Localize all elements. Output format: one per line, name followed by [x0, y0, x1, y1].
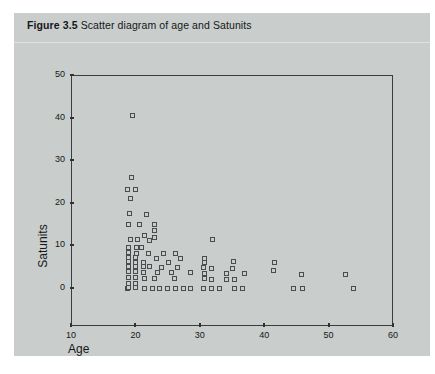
y-tick-label: 50 [37, 69, 65, 79]
data-point [155, 270, 160, 275]
data-point [152, 276, 157, 281]
data-point [169, 270, 174, 275]
figure-panel: Figure 3.5 Scatter diagram of age and Sa… [14, 13, 430, 356]
data-point [129, 175, 134, 180]
data-point [133, 275, 138, 280]
data-point [209, 266, 214, 271]
data-point [128, 196, 133, 201]
data-point [144, 212, 149, 217]
data-point [152, 235, 157, 240]
data-point [152, 222, 157, 227]
data-point [271, 268, 276, 273]
y-tick-mark [70, 287, 74, 289]
data-point [217, 286, 222, 291]
data-point [152, 228, 157, 233]
x-tick-mark [328, 323, 330, 327]
scatter-plot: 01020304050102030405060 Satunits Age [14, 43, 430, 356]
data-point [126, 275, 131, 280]
y-tick-label: 30 [37, 154, 65, 164]
x-tick-mark [199, 323, 201, 327]
data-point [147, 238, 152, 243]
data-point [142, 286, 147, 291]
data-point [201, 286, 206, 291]
figure-number: Figure 3.5 [27, 19, 78, 31]
figure-caption-bar: Figure 3.5 Scatter diagram of age and Sa… [14, 13, 430, 42]
data-point [135, 237, 140, 242]
data-point [141, 264, 146, 269]
data-point [230, 266, 235, 271]
data-point [231, 259, 236, 264]
data-point [165, 286, 170, 291]
x-tick-mark [70, 323, 72, 327]
data-point [147, 264, 152, 269]
data-point [232, 277, 237, 282]
x-axis-label: Age [68, 342, 89, 356]
data-point [272, 260, 277, 265]
figure-caption: Figure 3.5 Scatter diagram of age and Sa… [27, 19, 252, 31]
data-point [343, 272, 348, 277]
y-tick-mark [70, 244, 74, 246]
data-point [300, 286, 305, 291]
data-point [224, 277, 229, 282]
x-tick-label: 30 [185, 330, 215, 340]
data-point [139, 245, 144, 250]
y-tick-mark [70, 202, 74, 204]
data-point [351, 286, 356, 291]
data-point [142, 276, 147, 281]
figure-caption-text: Scatter diagram of age and Satunits [81, 19, 252, 31]
data-point [126, 269, 131, 274]
x-tick-mark [263, 323, 265, 327]
data-point [141, 270, 146, 275]
y-tick-mark [70, 74, 74, 76]
data-point [201, 265, 206, 270]
data-point [291, 286, 296, 291]
x-tick-mark [134, 323, 136, 327]
data-point [210, 237, 215, 242]
y-tick-mark [70, 117, 74, 119]
y-tick-mark [70, 159, 74, 161]
data-point [154, 256, 159, 261]
data-point [188, 270, 193, 275]
data-point [242, 271, 247, 276]
data-point [166, 260, 171, 265]
data-point [161, 251, 166, 256]
data-point [126, 285, 131, 290]
data-point [224, 271, 229, 276]
x-tick-label: 60 [378, 330, 408, 340]
x-tick-mark [392, 323, 394, 327]
data-point [126, 222, 131, 227]
y-tick-label: 0 [37, 282, 65, 292]
data-point [175, 265, 180, 270]
y-tick-label: 40 [37, 112, 65, 122]
data-point [188, 286, 193, 291]
data-point [146, 251, 151, 256]
data-point [240, 286, 245, 291]
data-point [209, 286, 214, 291]
data-point [130, 113, 135, 118]
data-point [173, 286, 178, 291]
x-tick-label: 40 [249, 330, 279, 340]
data-point [133, 269, 138, 274]
data-point [181, 286, 186, 291]
data-point [172, 276, 177, 281]
x-tick-label: 20 [120, 330, 150, 340]
data-point [127, 211, 132, 216]
data-point [157, 286, 162, 291]
data-point [209, 277, 214, 282]
y-tick-label: 20 [37, 197, 65, 207]
x-tick-label: 10 [56, 330, 86, 340]
data-point [178, 256, 183, 261]
data-point [133, 187, 138, 192]
data-point [137, 222, 142, 227]
data-point [232, 286, 237, 291]
data-point [202, 276, 207, 281]
data-point [133, 285, 138, 290]
data-point [128, 237, 133, 242]
x-tick-label: 50 [314, 330, 344, 340]
data-point [299, 272, 304, 277]
data-point [125, 187, 130, 192]
data-point [150, 286, 155, 291]
y-axis-label: Satunits [36, 211, 50, 281]
